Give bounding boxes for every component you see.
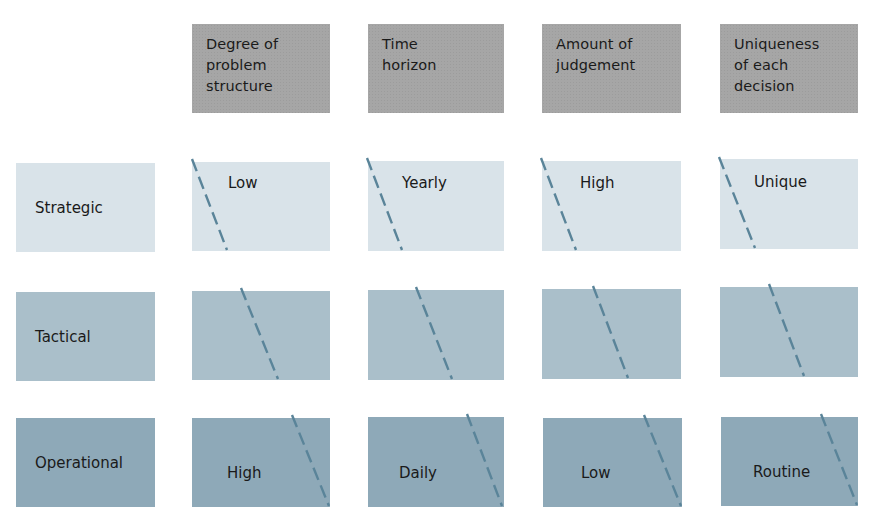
row-label-tactical: Tactical (16, 292, 155, 381)
dashed-continuum-line (192, 162, 330, 251)
dashed-continuum-line (720, 287, 858, 377)
cell-strategic-uniqueness: Unique (720, 159, 858, 249)
dashed-continuum-line (192, 418, 330, 507)
cell-strategic-amount-of-judgement: High (542, 161, 681, 251)
header-line: Uniqueness (734, 34, 858, 55)
cell-tactical-time-horizon (368, 290, 504, 380)
dashed-continuum-line (721, 417, 858, 506)
row-label-operational: Operational (16, 418, 155, 507)
dashed-continuum-line (368, 417, 504, 507)
header-line: judgement (556, 55, 681, 76)
cell-value: Daily (399, 464, 437, 482)
cell-value: Unique (754, 173, 807, 191)
dashed-continuum-line (542, 289, 681, 379)
header-line: Amount of (556, 34, 681, 55)
cell-strategic-time-horizon: Yearly (368, 161, 504, 251)
column-header-time-horizon: Time horizon (368, 24, 504, 113)
row-label-text: Strategic (35, 199, 103, 217)
column-header-problem-structure: Degree of problem structure (192, 24, 330, 113)
row-label-strategic: Strategic (16, 163, 155, 252)
row-label-text: Operational (35, 454, 123, 472)
cell-value: Yearly (402, 174, 447, 192)
cell-operational-time-horizon: Daily (368, 417, 504, 507)
cell-tactical-amount-of-judgement (542, 289, 681, 379)
cell-operational-uniqueness: Routine (721, 417, 858, 506)
cell-operational-problem-structure: High (192, 418, 330, 507)
header-line: Degree of (206, 34, 330, 55)
header-line: problem (206, 55, 330, 76)
cell-value: High (227, 464, 261, 482)
cell-value: High (580, 174, 614, 192)
dashed-continuum-line (368, 290, 504, 380)
cell-value: Routine (753, 463, 810, 481)
cell-value: Low (228, 174, 258, 192)
column-header-uniqueness: Uniqueness of each decision (720, 24, 858, 113)
cell-strategic-problem-structure: Low (192, 162, 330, 251)
cell-tactical-problem-structure (192, 291, 330, 380)
header-line: horizon (382, 55, 504, 76)
cell-tactical-uniqueness (720, 287, 858, 377)
header-line: structure (206, 76, 330, 97)
cell-value: Low (581, 464, 611, 482)
row-label-text: Tactical (35, 328, 91, 346)
header-line: decision (734, 76, 858, 97)
cell-operational-amount-of-judgement: Low (543, 418, 682, 507)
header-line: Time (382, 34, 504, 55)
column-header-amount-of-judgement: Amount of judgement (542, 24, 681, 113)
dashed-continuum-line (192, 291, 330, 380)
dashed-continuum-line (543, 418, 682, 507)
header-line: of each (734, 55, 858, 76)
